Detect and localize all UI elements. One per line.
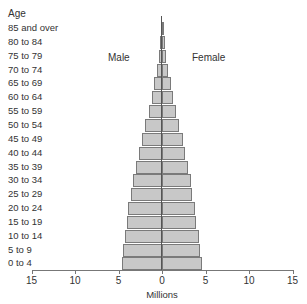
legend-male: Male xyxy=(108,52,130,63)
bar-male xyxy=(142,133,162,146)
row-label: 40 to 44 xyxy=(8,147,42,159)
x-tick xyxy=(162,270,163,274)
x-tick-label: 0 xyxy=(159,275,165,286)
bar-female xyxy=(162,64,168,77)
x-tick-label: 15 xyxy=(287,275,298,286)
y-axis-title: Age xyxy=(8,8,26,19)
bar-female xyxy=(162,257,202,270)
row-label: 35 to 39 xyxy=(8,161,42,173)
x-tick xyxy=(119,270,120,274)
row-label: 55 to 59 xyxy=(8,105,42,117)
bar-male xyxy=(133,174,162,187)
bar-female xyxy=(162,244,200,257)
bar-female xyxy=(162,77,171,90)
x-axis-label: Millions xyxy=(146,289,178,300)
row-label: 10 to 14 xyxy=(8,230,42,242)
bar-female xyxy=(162,202,195,215)
row-label: 45 to 49 xyxy=(8,133,42,145)
x-tick xyxy=(75,270,76,274)
bar-female xyxy=(162,161,188,174)
bar-male xyxy=(123,244,162,257)
bar-male xyxy=(136,161,162,174)
bar-male xyxy=(145,119,162,132)
row-label: 85 and over xyxy=(8,22,58,34)
x-tick-label: 10 xyxy=(243,275,254,286)
row-label: 15 to 19 xyxy=(8,216,42,228)
x-tick-label: 10 xyxy=(69,275,80,286)
x-tick xyxy=(249,270,250,274)
bar-male xyxy=(125,230,162,243)
bar-female xyxy=(162,147,185,160)
row-label: 30 to 34 xyxy=(8,174,42,186)
bar-male xyxy=(128,202,162,215)
x-tick xyxy=(293,270,294,274)
row-label: 0 to 4 xyxy=(8,257,32,269)
bar-male xyxy=(127,216,162,229)
row-label: 5 to 9 xyxy=(8,244,32,256)
center-line xyxy=(161,16,162,270)
legend-female: Female xyxy=(192,52,225,63)
bar-female xyxy=(162,174,191,187)
row-label: 25 to 29 xyxy=(8,188,42,200)
bar-female xyxy=(162,105,176,118)
bar-female xyxy=(162,36,165,49)
bar-male xyxy=(131,188,162,201)
row-label: 75 to 79 xyxy=(8,50,42,62)
x-tick xyxy=(206,270,207,274)
bar-male xyxy=(122,257,162,270)
x-tick-label: 5 xyxy=(203,275,209,286)
row-label: 80 to 84 xyxy=(8,36,42,48)
row-label: 20 to 24 xyxy=(8,202,42,214)
bar-female xyxy=(162,188,192,201)
x-tick xyxy=(32,270,33,274)
bar-male xyxy=(139,147,162,160)
row-label: 70 to 74 xyxy=(8,64,42,76)
row-label: 65 to 69 xyxy=(8,77,42,89)
bar-female xyxy=(162,230,199,243)
bar-female xyxy=(162,91,173,104)
bar-female xyxy=(162,133,183,146)
bar-female xyxy=(162,22,164,35)
bar-female xyxy=(162,216,196,229)
bar-female xyxy=(162,119,179,132)
x-tick-label: 15 xyxy=(26,275,37,286)
bar-female xyxy=(162,50,166,63)
x-tick-label: 5 xyxy=(116,275,122,286)
row-label: 60 to 64 xyxy=(8,91,42,103)
row-label: 50 to 54 xyxy=(8,119,42,131)
